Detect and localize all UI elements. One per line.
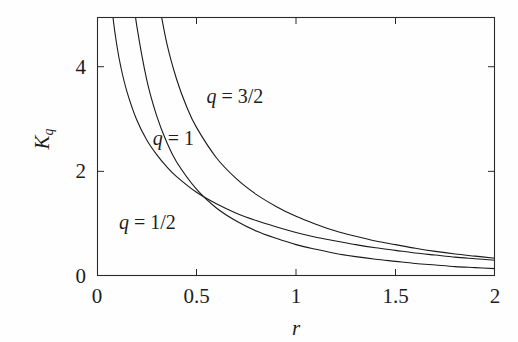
y-tick-label-0: 0 — [76, 266, 87, 287]
x-tick-label-2: 1 — [291, 286, 302, 307]
x-tick-label-0: 0 — [92, 286, 103, 307]
curve-annotation-2: q = 1/2 — [119, 212, 176, 232]
x-tick-label-1: 0.5 — [183, 286, 209, 307]
annotation-variable-2: q — [119, 211, 129, 233]
chart-figure: 00.511.52024rKqq = 3/2q = 1q = 1/2 — [0, 0, 518, 342]
curve-annotation-1: q = 1 — [153, 128, 194, 148]
x-axis-title: r — [292, 318, 300, 339]
y-axis-title-subscript: q — [41, 128, 56, 135]
annotation-variable-1: q — [153, 127, 163, 149]
y-tick-label-1: 2 — [76, 161, 87, 182]
y-tick-label-2: 4 — [76, 56, 87, 77]
y-axis-title-base: K — [30, 135, 54, 149]
curve-annotation-0: q = 3/2 — [206, 86, 263, 106]
annotation-value-2: = 1/2 — [129, 211, 176, 233]
y-axis-title: Kq — [32, 128, 56, 149]
x-tick-label-4: 2 — [490, 286, 501, 307]
x-tick-label-3: 1.5 — [382, 286, 408, 307]
annotation-variable-0: q — [206, 85, 216, 107]
annotation-value-1: = 1 — [163, 127, 194, 149]
annotation-value-0: = 3/2 — [216, 85, 263, 107]
